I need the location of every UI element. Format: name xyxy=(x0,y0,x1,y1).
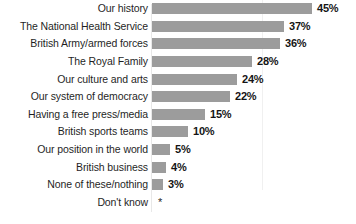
bar-category-label: British business xyxy=(0,162,148,173)
bar-zone: 4% xyxy=(148,158,356,176)
bar xyxy=(152,74,237,85)
bar-row: Our culture and arts24% xyxy=(0,70,356,88)
bar-value-asterisk: * xyxy=(158,197,162,208)
bar-value-label: 3% xyxy=(168,179,184,190)
bar-zone: 28% xyxy=(148,53,356,71)
bar-category-label: British sports teams xyxy=(0,126,148,137)
bar-row: Our history45% xyxy=(0,0,356,18)
bar-value-label: 10% xyxy=(193,126,214,137)
bar xyxy=(152,126,188,137)
bar xyxy=(152,56,252,67)
bar xyxy=(152,162,166,173)
bar-zone: 37% xyxy=(148,18,356,36)
bar-value-label: 37% xyxy=(289,21,310,32)
bar-zone: 10% xyxy=(148,123,356,141)
bar xyxy=(152,109,205,120)
bar-row: The Royal Family28% xyxy=(0,53,356,71)
bar xyxy=(152,179,163,190)
bar-category-label: Our history xyxy=(0,3,148,14)
bar-category-label: Our culture and arts xyxy=(0,74,148,85)
bar-row: Having a free press/media15% xyxy=(0,106,356,124)
bar xyxy=(152,38,280,49)
bar-row: British sports teams10% xyxy=(0,123,356,141)
bar-value-label: 4% xyxy=(171,162,187,173)
bar-category-label: British Army/armed forces xyxy=(0,38,148,49)
bar-value-label: 24% xyxy=(242,74,263,85)
chart-rows: Our history45%The National Health Servic… xyxy=(0,0,356,211)
bar-row: Don't know* xyxy=(0,194,356,212)
bar-row: None of these/nothing3% xyxy=(0,176,356,194)
bar-row: Our position in the world5% xyxy=(0,141,356,159)
bar-category-label: The Royal Family xyxy=(0,56,148,67)
bar xyxy=(152,3,312,14)
bar-row: Our system of democracy22% xyxy=(0,88,356,106)
bar-category-label: Having a free press/media xyxy=(0,109,148,120)
bar-value-label: 22% xyxy=(235,91,256,102)
bar-row: British business4% xyxy=(0,158,356,176)
bar-value-label: 45% xyxy=(317,3,338,14)
bar-zone: 36% xyxy=(148,35,356,53)
bar-zone: 5% xyxy=(148,141,356,159)
bar-zone: 3% xyxy=(148,176,356,194)
bar-category-label: The National Health Service xyxy=(0,21,148,32)
bar xyxy=(152,91,230,102)
bar-value-label: 36% xyxy=(285,38,306,49)
bar xyxy=(152,144,170,155)
bar-zone: * xyxy=(148,194,356,212)
bar-category-label: Our system of democracy xyxy=(0,91,148,102)
bar-value-label: 28% xyxy=(257,56,278,67)
bar-zone: 22% xyxy=(148,88,356,106)
bar-chart: Our history45%The National Health Servic… xyxy=(0,0,356,224)
bar-row: The National Health Service37% xyxy=(0,18,356,36)
bar-value-label: 5% xyxy=(175,144,191,155)
bar-zone: 24% xyxy=(148,70,356,88)
bar-value-label: 15% xyxy=(210,109,231,120)
bar-row: British Army/armed forces36% xyxy=(0,35,356,53)
bar xyxy=(152,21,284,32)
bar-zone: 15% xyxy=(148,106,356,124)
bar-category-label: Don't know xyxy=(0,197,148,208)
bar-category-label: Our position in the world xyxy=(0,144,148,155)
bar-zone: 45% xyxy=(148,0,356,18)
bar-category-label: None of these/nothing xyxy=(0,179,148,190)
